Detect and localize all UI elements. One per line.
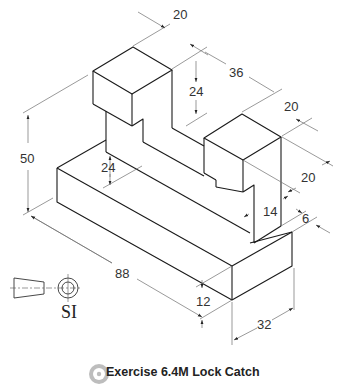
dim-overall-length: 88 xyxy=(115,266,129,281)
units-label: SI xyxy=(61,302,77,322)
dim-right-block-width: 20 xyxy=(301,170,315,185)
dim-base-depth: 32 xyxy=(257,317,271,332)
dim-notch-depth: 6 xyxy=(302,211,309,226)
dim-top-width: 20 xyxy=(173,7,187,22)
part-outline xyxy=(57,47,292,300)
dim-block-spacing: 36 xyxy=(229,65,243,80)
dim-slot-height: 24 xyxy=(101,160,115,175)
dim-base-height: 12 xyxy=(196,294,210,309)
dim-notch-height: 14 xyxy=(263,204,277,219)
dim-overall-height: 50 xyxy=(20,151,34,166)
third-angle-projection-icon xyxy=(10,274,80,302)
dim-right-block-depth: 20 xyxy=(284,99,298,114)
dim-upper-height: 24 xyxy=(189,84,203,99)
exercise-caption: Exercise 6.4M Lock Catch xyxy=(106,365,260,379)
